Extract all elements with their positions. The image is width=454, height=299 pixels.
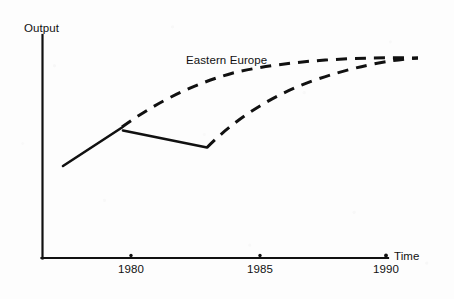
- x-tick-1990: [384, 254, 388, 258]
- y-axis-title: Output: [24, 22, 59, 34]
- chart-plot-area: [0, 0, 454, 299]
- series-delayed-projection: [207, 58, 418, 148]
- annotation-eastern-europe: Eastern Europe: [186, 54, 267, 66]
- x-axis-title: Time: [394, 250, 420, 262]
- x-tick-1980: [129, 254, 132, 257]
- x-tick-label-1985: 1985: [240, 263, 280, 275]
- series-optimistic-projection: [122, 58, 418, 127]
- x-tick-label-1990: 1990: [366, 263, 406, 275]
- x-tick-label-1980: 1980: [111, 263, 151, 275]
- x-tick-1985: [258, 254, 261, 257]
- series-historical-decline: [123, 131, 207, 148]
- series-historical-rise: [63, 128, 122, 167]
- chart-page: Output Time 1980 1985 1990 Eastern Europ…: [0, 0, 454, 299]
